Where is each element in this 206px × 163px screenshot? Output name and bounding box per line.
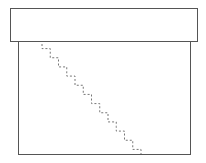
dashed-staircase-line xyxy=(0,0,206,163)
